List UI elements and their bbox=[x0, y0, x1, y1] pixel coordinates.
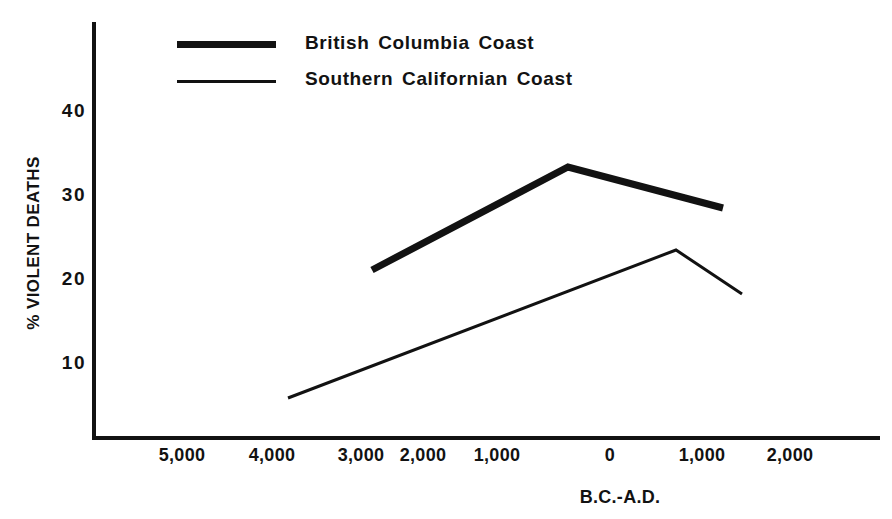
legend-item-british-columbia-coast: British Columbia Coast bbox=[177, 28, 637, 64]
legend-label-southern-californian-coast: Southern Californian Coast bbox=[305, 68, 573, 90]
y-axis-line bbox=[92, 22, 96, 440]
y-tick-label-30: 30 bbox=[44, 185, 86, 204]
chart-container: % VIOLENT DEATHS 40 30 20 10 5,000 4,000… bbox=[0, 0, 892, 519]
series-line-british-columbia-coast bbox=[372, 167, 723, 270]
x-tick-label-5000bc: 5,000 bbox=[159, 446, 206, 464]
y-axis-tick-labels: 40 30 20 10 bbox=[0, 0, 86, 440]
legend-label-british-columbia-coast: British Columbia Coast bbox=[305, 32, 534, 54]
x-tick-label-3000bc: 3,000 bbox=[338, 446, 385, 464]
legend-item-southern-californian-coast: Southern Californian Coast bbox=[177, 64, 637, 100]
series-line-southern-californian-coast bbox=[288, 250, 742, 398]
x-tick-label-2000bc: 2,000 bbox=[400, 446, 447, 464]
y-tick-label-10: 10 bbox=[44, 353, 86, 372]
x-axis-title: B.C.-A.D. bbox=[580, 487, 661, 508]
x-tick-label-2000ad: 2,000 bbox=[767, 446, 814, 464]
y-tick-label-20: 20 bbox=[44, 269, 86, 288]
x-tick-label-1000bc: 1,000 bbox=[474, 446, 521, 464]
y-tick-label-40: 40 bbox=[44, 101, 86, 120]
x-axis-line bbox=[92, 436, 880, 440]
x-tick-label-1000ad: 1,000 bbox=[679, 446, 726, 464]
chart-legend: British Columbia Coast Southern Californ… bbox=[177, 28, 637, 100]
x-tick-label-zero: 0 bbox=[605, 446, 615, 464]
legend-swatch-thick-line-icon bbox=[177, 41, 276, 48]
legend-swatch-thin-line-icon bbox=[177, 80, 276, 83]
x-tick-label-4000bc: 4,000 bbox=[249, 446, 296, 464]
